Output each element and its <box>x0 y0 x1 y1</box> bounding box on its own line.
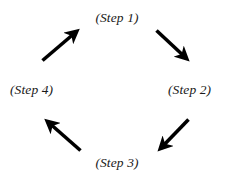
arrow-step-3-to-step-4 <box>48 122 81 151</box>
arrow-step-2-to-step-3 <box>161 120 189 149</box>
cycle-diagram: (Step 1) (Step 2) (Step 3) (Step 4) <box>0 0 234 181</box>
arrow-step-4-to-step-1 <box>43 32 77 61</box>
arrow-step-1-to-step-2 <box>157 31 187 59</box>
step-label-3: (Step 3) <box>95 156 138 170</box>
step-label-1: (Step 1) <box>95 11 138 25</box>
step-label-4: (Step 4) <box>10 83 53 97</box>
step-label-2: (Step 2) <box>168 83 211 97</box>
